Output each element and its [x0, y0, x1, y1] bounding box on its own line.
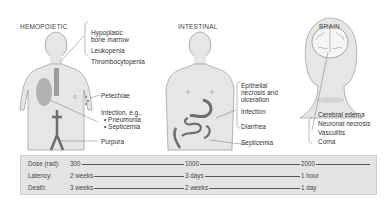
label-cerebral-edema: Cerebral edema: [318, 111, 365, 119]
label-ulceration: ulceration: [241, 96, 269, 104]
label-neuronal-necrosis: Neuronal necrosis: [318, 120, 370, 128]
row-key: Latency:: [28, 172, 52, 179]
label-thrombocytopenia: Thrombocytopenia: [91, 58, 145, 66]
value-low: 3 weeks: [69, 184, 94, 191]
value-high: 1 day: [300, 184, 317, 191]
label-coma: Coma: [318, 138, 335, 146]
value-high: 1 hour: [300, 172, 320, 179]
intestinal-heading: INTESTINAL: [178, 23, 218, 30]
value-low: 300: [69, 160, 82, 167]
table-row-death: Death: 3 weeks 2 weeks 1 day: [21, 183, 376, 194]
hemopoietic-heading: HEMOPOIETIC: [20, 23, 68, 30]
label-diarrhea: Diarrhea: [241, 123, 266, 131]
label-bone-marrow: bone marrow: [91, 36, 129, 44]
hemopoietic-body-figure: [20, 22, 100, 150]
label-intestinal-infection: Infection: [241, 108, 266, 116]
row-key: Dose (rad):: [28, 160, 60, 167]
label-septicemia: • Septicemia: [104, 123, 140, 131]
label-petechiae: Petechiae: [101, 92, 130, 100]
label-leukopenia: Leukopenia: [91, 47, 125, 55]
value-high: 2000: [300, 160, 316, 167]
timeline-line: [78, 164, 370, 165]
dose-latency-death-table: Dose (rad): 300 1000 2000 Latency: 2 wee…: [20, 155, 377, 195]
value-mid: 3 days: [184, 172, 205, 179]
value-mid: 1000: [184, 160, 200, 167]
label-intestinal-septicemia: Septicemia: [241, 139, 273, 147]
label-purpura: Purpura: [101, 138, 124, 146]
brain-heading: BRAIN: [319, 23, 340, 30]
label-vasculitis: Vasculitis: [318, 129, 345, 137]
value-low: 2 weeks: [69, 172, 94, 179]
table-row-dose: Dose (rad): 300 1000 2000: [21, 159, 376, 170]
value-mid: 2 weeks: [184, 184, 209, 191]
row-key: Death:: [28, 184, 47, 191]
intestinal-body-figure: [166, 32, 246, 150]
table-row-latency: Latency: 2 weeks 3 days 1 hour: [21, 171, 376, 182]
